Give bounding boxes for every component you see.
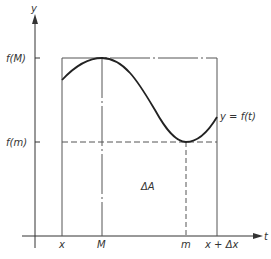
y-axis-label: y xyxy=(30,3,38,14)
diagram-canvas: y t f(M) f(m) x M m x + Δx y = f(t) ΔA xyxy=(0,0,271,259)
fm-label: f(m) xyxy=(6,137,27,148)
function-curve xyxy=(62,58,217,142)
x-tick-label: x xyxy=(58,239,65,250)
t-axis-label: t xyxy=(264,231,269,242)
m-tick-label: m xyxy=(181,239,191,250)
y-axis-arrow-icon xyxy=(32,14,38,24)
t-axis-arrow-icon xyxy=(253,233,263,239)
M-tick-label: M xyxy=(97,239,106,250)
fM-label: f(M) xyxy=(6,53,26,64)
x-plus-dx-tick-label: x + Δx xyxy=(204,239,238,250)
area-label: ΔA xyxy=(140,181,155,192)
curve-label: y = f(t) xyxy=(219,111,256,122)
